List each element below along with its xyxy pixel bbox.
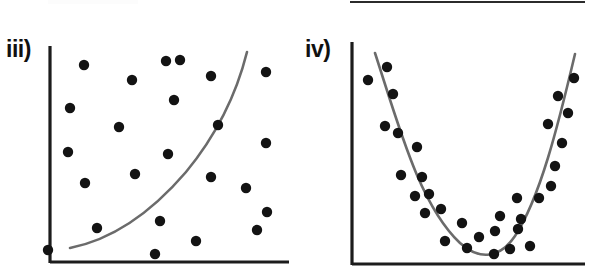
data-point — [363, 75, 373, 85]
data-point — [489, 249, 499, 259]
scatter-plot-iii — [0, 0, 300, 277]
data-point — [262, 207, 272, 217]
data-point — [569, 73, 579, 83]
data-point — [92, 223, 102, 233]
data-point — [525, 241, 535, 251]
data-point — [550, 161, 560, 171]
data-point — [495, 211, 505, 221]
data-point — [543, 119, 553, 129]
data-point — [474, 232, 484, 242]
data-point — [424, 189, 434, 199]
data-point — [457, 218, 467, 228]
data-point — [175, 55, 185, 65]
trend-curve — [375, 53, 575, 255]
data-point — [396, 170, 406, 180]
data-point — [130, 169, 140, 179]
data-point — [420, 208, 430, 218]
data-point — [393, 128, 403, 138]
data-point — [516, 214, 526, 224]
data-point — [534, 193, 544, 203]
data-point — [65, 103, 75, 113]
data-point — [127, 75, 137, 85]
data-point — [163, 149, 173, 159]
data-point — [512, 193, 522, 203]
data-point — [490, 226, 500, 236]
data-point — [191, 236, 201, 246]
data-point — [150, 249, 160, 259]
data-point — [206, 172, 216, 182]
data-point — [261, 138, 271, 148]
data-point — [155, 216, 165, 226]
data-point — [382, 62, 392, 72]
data-point — [114, 122, 124, 132]
data-point — [505, 244, 515, 254]
data-point — [43, 245, 53, 255]
data-point — [436, 204, 446, 214]
data-point — [553, 91, 563, 101]
data-point — [169, 95, 179, 105]
data-point — [563, 108, 573, 118]
data-point — [63, 147, 73, 157]
data-point — [440, 236, 450, 246]
data-point — [252, 225, 262, 235]
data-point — [206, 71, 216, 81]
data-point — [410, 191, 420, 201]
data-point — [546, 181, 556, 191]
data-point — [412, 142, 422, 152]
data-point — [261, 67, 271, 77]
data-point — [241, 183, 251, 193]
data-point — [80, 178, 90, 188]
data-point — [388, 89, 398, 99]
data-point — [513, 224, 523, 234]
data-point — [417, 172, 427, 182]
data-point — [161, 56, 171, 66]
data-point — [380, 121, 390, 131]
data-point — [557, 138, 567, 148]
panel-iv: iv) — [296, 0, 592, 277]
figure-root: iii) iv) — [0, 0, 592, 277]
panel-iii: iii) — [0, 0, 300, 277]
data-point — [462, 243, 472, 253]
scatter-plot-iv — [296, 0, 592, 277]
data-point — [79, 60, 89, 70]
data-point — [213, 120, 223, 130]
